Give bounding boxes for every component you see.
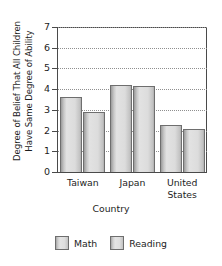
- y-tick-label: 6: [30, 43, 50, 53]
- x-tick-label: UnitedStates: [152, 177, 212, 200]
- y-tick-label: 7: [30, 22, 50, 32]
- bar-japan-reading: [133, 86, 155, 172]
- bar-taiwan-math: [60, 97, 82, 172]
- y-tick-label: 5: [30, 63, 50, 73]
- y-tick-mark: [52, 110, 58, 111]
- y-tick-mark: [52, 151, 58, 152]
- legend-label-math: Math: [74, 238, 97, 249]
- y-tick-label: 2: [30, 126, 50, 136]
- x-axis-title: Country: [0, 203, 222, 214]
- y-tick-mark: [52, 68, 58, 69]
- gridline: [58, 48, 207, 49]
- x-tick-label-line: States: [152, 189, 212, 201]
- x-tick-label-line: United: [152, 177, 212, 189]
- y-tick-label: 1: [30, 146, 50, 156]
- legend-entry-reading: Reading: [110, 236, 167, 250]
- bar-japan-math: [110, 85, 132, 172]
- legend-swatch-math: [55, 236, 69, 250]
- gridline: [58, 27, 207, 28]
- y-tick-label: 4: [30, 84, 50, 94]
- bar-united-states-math: [160, 125, 182, 172]
- bar-taiwan-reading: [83, 112, 105, 172]
- y-axis-title-line-1: Degree of Belief That All Children: [12, 11, 24, 171]
- y-tick-mark: [52, 89, 58, 90]
- y-tick-mark: [52, 131, 58, 132]
- legend-entry-math: Math: [55, 236, 97, 250]
- y-tick-label: 3: [30, 105, 50, 115]
- bar-united-states-reading: [183, 129, 205, 173]
- y-tick-mark: [52, 172, 58, 173]
- y-tick-mark: [52, 48, 58, 49]
- legend: Math Reading: [0, 236, 222, 250]
- bar-chart: Degree of Belief That All Children Have …: [0, 0, 222, 266]
- gridline: [58, 68, 207, 69]
- legend-label-reading: Reading: [129, 238, 167, 249]
- legend-swatch-reading: [110, 236, 124, 250]
- y-tick-mark: [52, 27, 58, 28]
- y-tick-label: 0: [30, 167, 50, 177]
